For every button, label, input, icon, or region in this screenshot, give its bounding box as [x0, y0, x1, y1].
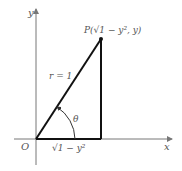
point-label: P(√1 − y², y) — [84, 26, 141, 35]
hypotenuse — [36, 39, 101, 139]
base-label: √1 − y² — [52, 144, 85, 153]
hypotenuse-label: r = 1 — [49, 72, 72, 81]
y-axis-label: y — [28, 8, 34, 18]
angle-label: θ — [73, 115, 78, 124]
point-p — [99, 37, 103, 41]
origin-label: O — [21, 142, 29, 152]
x-axis-label: x — [164, 142, 170, 152]
